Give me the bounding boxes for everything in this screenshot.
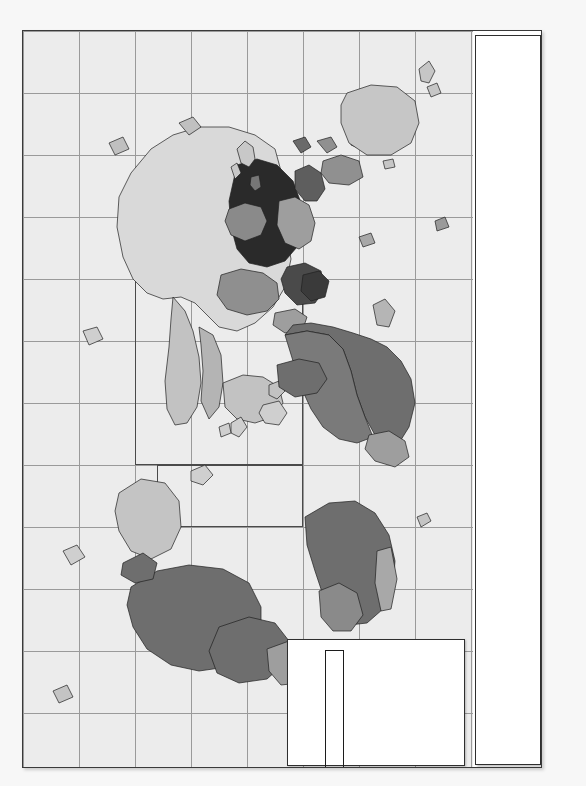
map-legend	[287, 639, 465, 766]
legend-color-ramp	[325, 650, 344, 768]
page-folio	[555, 753, 581, 777]
legend-scale	[310, 699, 410, 768]
small-states-legend-panel[interactable]	[475, 35, 541, 765]
graticule-line	[23, 767, 473, 768]
map-sheet	[22, 30, 542, 768]
atlas-page	[0, 0, 586, 786]
